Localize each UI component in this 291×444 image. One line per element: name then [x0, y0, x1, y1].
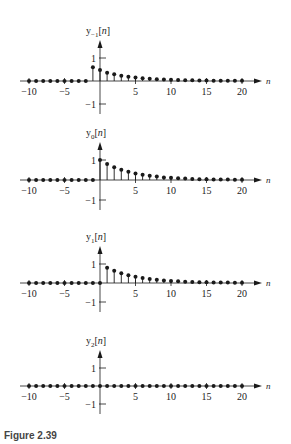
stem-marker — [91, 65, 95, 69]
x-axis-arrow-icon — [254, 178, 262, 183]
stem-plot-0: ny−1[n]1−1−10−55101520 — [20, 25, 271, 114]
stem-marker — [55, 79, 59, 83]
x-tick-label: −10 — [21, 288, 37, 299]
x-axis-label: n — [266, 381, 271, 391]
stem-plot-3: ny2[n]1−1−10−55101520 — [20, 335, 271, 414]
x-tick-label: 15 — [202, 288, 212, 299]
y-tick-label: −1 — [85, 195, 96, 206]
stem-marker — [34, 281, 38, 285]
x-tick-label: 15 — [202, 185, 212, 196]
stem-plot-2: ny1[n]1−1−10−55101520 — [20, 231, 271, 312]
stem-marker — [190, 78, 194, 82]
stem-plot-1: ny0[n]1−1−10−55101520 — [20, 127, 271, 210]
stem-marker — [119, 271, 123, 275]
y-tick-label: 1 — [91, 363, 96, 374]
stem-marker — [205, 79, 209, 83]
stem-marker — [70, 79, 74, 83]
y-axis-label: y0[n] — [86, 127, 106, 141]
stem-marker — [197, 177, 201, 181]
y-tick-label: −1 — [85, 297, 96, 308]
stem-marker — [98, 158, 102, 162]
stem-marker — [55, 281, 59, 285]
y-axis-label: y−1[n] — [86, 25, 110, 39]
stem-marker — [84, 281, 88, 285]
x-tick-label: −5 — [59, 288, 70, 299]
stem-marker — [162, 279, 166, 283]
y-axis-label: y1[n] — [86, 231, 106, 245]
stem-marker — [176, 78, 180, 82]
stem-marker — [27, 281, 31, 285]
stem-marker — [176, 384, 180, 388]
stem-marker — [169, 279, 173, 283]
stem-marker — [205, 177, 209, 181]
stem-marker — [63, 79, 67, 83]
y-tick-label: −1 — [85, 399, 96, 410]
x-tick-label: −5 — [59, 185, 70, 196]
stem-marker — [119, 168, 123, 172]
x-tick-label: −10 — [21, 185, 37, 196]
x-tick-label: −10 — [21, 86, 37, 97]
stem-marker — [169, 384, 173, 388]
x-tick-label: 20 — [237, 86, 247, 97]
x-tick-label: 20 — [237, 288, 247, 299]
stem-marker — [141, 76, 145, 80]
stem-marker — [70, 384, 74, 388]
stem-marker — [84, 178, 88, 182]
stem-marker — [226, 384, 230, 388]
stem-marker — [27, 178, 31, 182]
stem-marker — [126, 384, 130, 388]
stem-marker — [34, 384, 38, 388]
stem-marker — [162, 78, 166, 82]
stem-marker — [126, 170, 130, 174]
stem-marker — [63, 281, 67, 285]
stem-marker — [41, 178, 45, 182]
stem-marker — [219, 281, 223, 285]
stem-marker — [155, 175, 159, 179]
x-tick-label: 5 — [133, 185, 138, 196]
stem-marker — [190, 177, 194, 181]
stem-marker — [91, 178, 95, 182]
x-tick-label: 10 — [166, 185, 176, 196]
x-tick-label: 15 — [202, 86, 212, 97]
x-tick-label: 20 — [237, 391, 247, 402]
stem-marker — [119, 74, 123, 78]
stem-marker — [176, 176, 180, 180]
stem-marker — [27, 79, 31, 83]
stem-marker — [126, 273, 130, 277]
stem-marker — [190, 384, 194, 388]
stem-marker — [183, 280, 187, 284]
x-tick-label: 10 — [166, 288, 176, 299]
stem-marker — [197, 384, 201, 388]
stem-marker — [155, 384, 159, 388]
stem-marker — [141, 173, 145, 177]
stem-marker — [55, 384, 59, 388]
stem-marker — [240, 79, 244, 83]
stem-marker — [134, 76, 138, 80]
stem-marker — [70, 178, 74, 182]
stem-marker — [197, 280, 201, 284]
stem-marker — [41, 281, 45, 285]
stem-marker — [197, 79, 201, 83]
stem-marker — [105, 266, 109, 270]
stem-marker — [219, 384, 223, 388]
stem-marker — [233, 281, 237, 285]
x-tick-label: 5 — [133, 86, 138, 97]
stem-marker — [162, 384, 166, 388]
stem-marker — [77, 178, 81, 182]
stem-marker — [48, 79, 52, 83]
stem-marker — [134, 275, 138, 279]
y-axis-arrow-icon — [98, 350, 103, 358]
x-tick-label: −10 — [21, 391, 37, 402]
stem-marker — [126, 75, 130, 79]
stem-marker — [98, 384, 102, 388]
stem-marker — [134, 171, 138, 175]
x-axis-arrow-icon — [254, 79, 262, 84]
stem-marker — [155, 77, 159, 81]
stem-marker — [105, 384, 109, 388]
x-tick-label: 10 — [166, 391, 176, 402]
stem-marker — [41, 79, 45, 83]
stem-marker — [183, 177, 187, 181]
stem-marker — [212, 79, 216, 83]
stem-marker — [205, 280, 209, 284]
